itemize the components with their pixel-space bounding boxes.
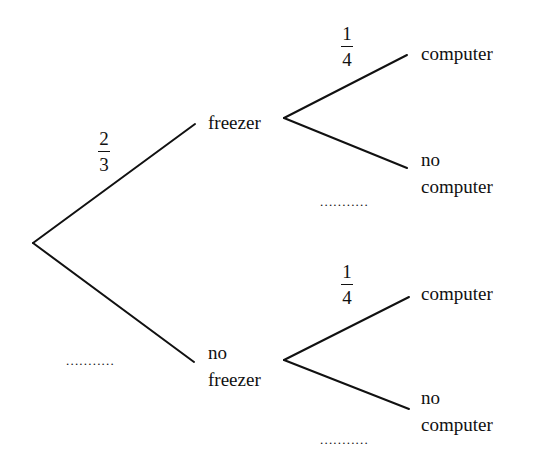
node-upper-no-computer: no computer	[421, 146, 493, 200]
branch-root-no-freezer	[33, 243, 194, 362]
blank-probability-lower-no-computer[interactable]: ...........	[320, 435, 369, 445]
fraction-bar	[341, 46, 353, 47]
node-upper-computer: computer	[421, 40, 493, 67]
probability-upper-computer: 1 4	[339, 24, 355, 70]
fraction-bar	[341, 284, 353, 285]
node-lower-computer: computer	[421, 280, 493, 307]
branch-freezer-no-computer	[284, 118, 407, 168]
branch-root-freezer	[33, 124, 195, 243]
blank-probability-no-freezer[interactable]: ...........	[66, 356, 115, 366]
probability-lower-computer: 1 4	[339, 262, 355, 308]
node-no-freezer: no freezer	[208, 339, 261, 393]
node-lower-no-computer: no computer	[421, 384, 493, 438]
blank-probability-upper-no-computer[interactable]: ...........	[320, 197, 369, 207]
fraction-bar	[98, 151, 110, 152]
probability-freezer: 2 3	[96, 129, 112, 175]
branch-no-freezer-no-computer	[284, 360, 409, 409]
node-freezer: freezer	[208, 109, 261, 136]
